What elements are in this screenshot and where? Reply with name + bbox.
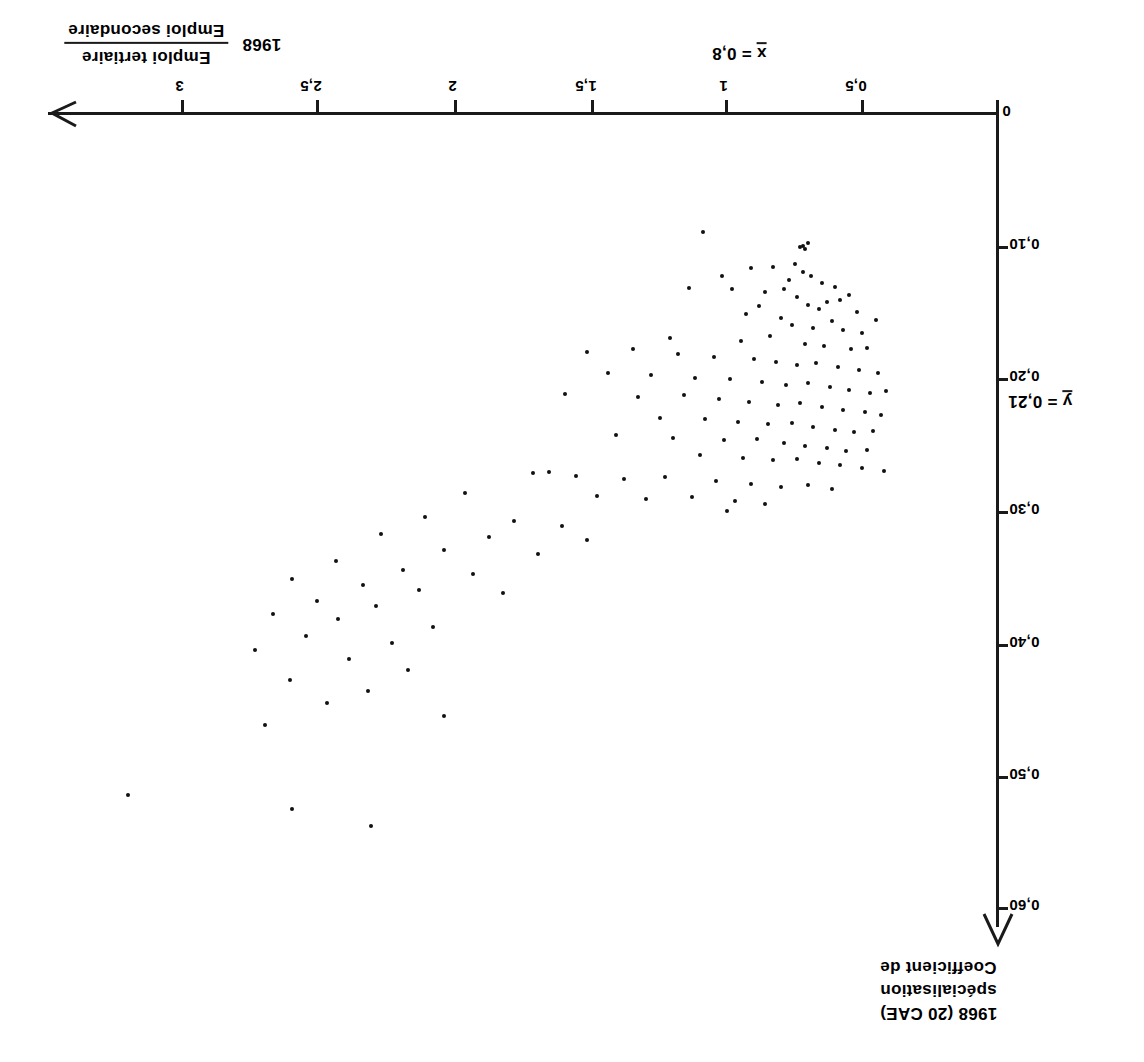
data-point [790, 421, 794, 425]
data-point [701, 230, 705, 234]
data-point [749, 266, 753, 270]
data-point [347, 657, 351, 661]
data-point [876, 371, 880, 375]
data-point [423, 515, 427, 519]
data-point [401, 568, 405, 572]
data-point [463, 491, 467, 495]
data-point [803, 342, 807, 346]
data-point [574, 474, 578, 478]
data-point [841, 408, 845, 412]
data-point [636, 395, 640, 399]
data-point [882, 469, 886, 473]
data-point [803, 444, 807, 448]
data-point [687, 286, 691, 290]
data-point [585, 538, 589, 542]
data-point [836, 365, 840, 369]
data-point [771, 458, 775, 462]
data-point [714, 479, 718, 483]
data-point [560, 524, 564, 528]
data-point [374, 604, 378, 608]
data-point [512, 519, 516, 523]
data-point [865, 346, 869, 350]
data-point [844, 449, 848, 453]
data-point [744, 312, 748, 316]
data-point [703, 417, 707, 421]
data-point [793, 262, 797, 266]
data-point [830, 319, 834, 323]
data-point [782, 441, 786, 445]
data-point [763, 290, 767, 294]
data-point [828, 385, 832, 389]
data-point [614, 433, 618, 437]
data-point [860, 331, 864, 335]
data-point [806, 381, 810, 385]
data-point [253, 648, 257, 652]
data-point [733, 499, 737, 503]
data-point [595, 494, 599, 498]
data-point [855, 310, 859, 314]
data-point [749, 482, 753, 486]
data-point [730, 287, 734, 291]
data-point [801, 270, 805, 274]
data-point [825, 446, 829, 450]
data-point [366, 689, 370, 693]
data-point [658, 416, 662, 420]
data-point [795, 457, 799, 461]
figure-canvas: 0 0,5 1 1,5 2 2,5 3 x = 0,8 1968 Emploi … [0, 0, 1144, 1062]
data-point [779, 485, 783, 489]
data-point [857, 368, 861, 372]
data-point [768, 334, 772, 338]
data-point [304, 634, 308, 638]
data-point [803, 247, 807, 251]
data-point [822, 344, 826, 348]
data-point [766, 422, 770, 426]
data-point [406, 668, 410, 672]
data-point [563, 392, 567, 396]
data-point [369, 824, 373, 828]
data-point [774, 360, 778, 364]
data-point [728, 377, 732, 381]
data-point [817, 307, 821, 311]
data-point [315, 599, 319, 603]
data-point [820, 281, 824, 285]
data-point [442, 548, 446, 552]
data-point [739, 339, 743, 343]
data-point [649, 373, 653, 377]
data-point [811, 425, 815, 429]
data-point [763, 502, 767, 506]
data-point [712, 355, 716, 359]
data-point [717, 397, 721, 401]
data-point [847, 388, 851, 392]
data-point [752, 357, 756, 361]
data-point [874, 318, 878, 322]
data-point [676, 352, 680, 356]
data-point [644, 497, 648, 501]
data-point [795, 363, 799, 367]
data-point [798, 245, 802, 249]
data-point [390, 641, 394, 645]
data-point [809, 274, 813, 278]
data-point [795, 295, 799, 299]
data-point [830, 487, 834, 491]
data-point [747, 400, 751, 404]
data-point [606, 371, 610, 375]
data-point [787, 278, 791, 282]
data-point [631, 347, 635, 351]
data-point [361, 583, 365, 587]
data-point [820, 405, 824, 409]
data-point [849, 347, 853, 351]
data-point [471, 572, 475, 576]
data-point [668, 336, 672, 340]
data-point [852, 430, 856, 434]
data-point [663, 475, 667, 479]
data-point [622, 477, 626, 481]
data-point [838, 463, 842, 467]
data-point [547, 470, 551, 474]
data-point [531, 471, 535, 475]
data-point [736, 420, 740, 424]
data-point [865, 448, 869, 452]
data-point [884, 389, 888, 393]
data-point [698, 453, 702, 457]
data-point [126, 793, 130, 797]
data-point [814, 361, 818, 365]
